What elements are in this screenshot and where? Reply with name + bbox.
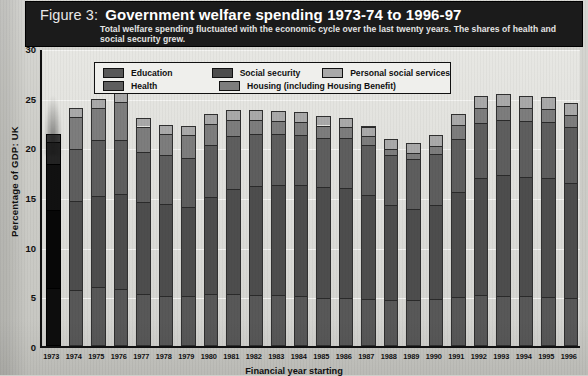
- legend-label-housing: Housing (including Housing Benefit): [247, 81, 396, 91]
- chart-legend: Education Social security Personal socia…: [94, 62, 451, 94]
- y-axis-title: Percentage of GDP: UK: [9, 82, 20, 282]
- legend-swatch-education: [103, 68, 124, 78]
- x-axis-tick-label: 1996: [555, 352, 583, 361]
- legend-item-social-security: Social security: [212, 68, 323, 78]
- legend-item-personal-social-services: Personal social services: [322, 68, 450, 78]
- legend-label-social-security: Social security: [240, 68, 301, 78]
- y-axis-tick-label: 30: [0, 44, 36, 55]
- legend-item-education: Education: [103, 68, 212, 78]
- legend-swatch-health: [103, 81, 124, 91]
- legend-row-1: Education Social security Personal socia…: [103, 66, 450, 79]
- legend-label-education: Education: [131, 68, 173, 78]
- legend-label-personal-social-services: Personal social services: [350, 68, 450, 78]
- legend-swatch-social-security: [212, 68, 233, 78]
- x-axis-title: Financial year starting: [0, 366, 588, 376]
- legend-swatch-personal-social-services: [322, 68, 343, 78]
- legend-item-housing: Housing (including Housing Benefit): [219, 81, 396, 91]
- legend-row-2: Health Housing (including Housing Benefi…: [103, 79, 450, 92]
- y-axis-tick-label: 0: [0, 342, 36, 353]
- y-axis-tick-label: 5: [0, 292, 36, 303]
- legend-item-health: Health: [103, 81, 219, 91]
- legend-swatch-housing: [219, 81, 240, 91]
- legend-label-health: Health: [131, 81, 157, 91]
